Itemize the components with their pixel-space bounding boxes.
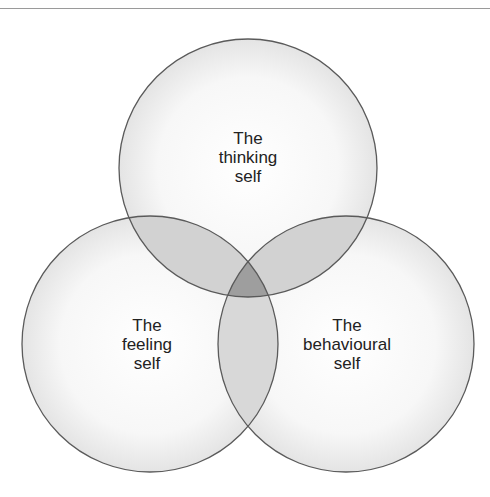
- venn-diagram: [0, 0, 490, 497]
- label-line: The: [122, 316, 172, 335]
- label-line: The: [219, 129, 278, 148]
- label-line: feeling: [122, 335, 172, 354]
- label-behavioural-self: The behavioural self: [303, 316, 391, 373]
- label-thinking-self: The thinking self: [219, 129, 278, 186]
- label-line: thinking: [219, 148, 278, 167]
- label-line: self: [219, 167, 278, 186]
- label-line: self: [122, 354, 172, 373]
- label-line: The: [303, 316, 391, 335]
- label-line: self: [303, 354, 391, 373]
- label-feeling-self: The feeling self: [122, 316, 172, 373]
- label-line: behavioural: [303, 335, 391, 354]
